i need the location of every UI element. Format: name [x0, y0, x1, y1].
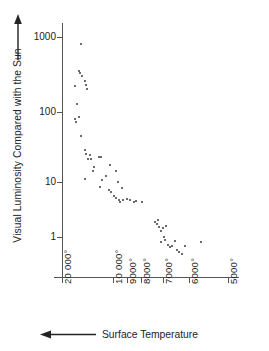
- x-axis-tick-labels: 20 000° 10 000° 9000° 8000° 7000° 6000° …: [0, 0, 269, 351]
- left-arrow-icon: [40, 329, 96, 340]
- hr-diagram-figure: Visual Luminosity Compared with the Sun …: [0, 0, 269, 351]
- x-tick-label-6000: 6000°: [189, 258, 200, 284]
- x-tick-label-5000: 5000°: [228, 258, 239, 284]
- x-axis-title: Surface Temperature: [102, 329, 198, 340]
- x-tick-label-8000: 8000°: [141, 258, 152, 284]
- x-tick-label-7000: 7000°: [163, 258, 174, 284]
- x-tick-label-10000: 10 000°: [113, 249, 124, 284]
- x-tick-label-9000: 9000°: [127, 258, 138, 284]
- x-axis-title-block: Surface Temperature: [40, 325, 240, 343]
- x-tick-label-20000: 20 000°: [62, 249, 73, 284]
